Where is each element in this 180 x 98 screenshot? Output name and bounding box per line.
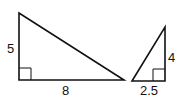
label-left-horizontal: 8	[62, 83, 69, 98]
label-right-horizontal: 2.5	[140, 83, 158, 98]
triangle-right	[132, 27, 165, 81]
diagram-canvas: 5 8 4 2.5	[0, 0, 180, 98]
right-angle-marker-left	[19, 68, 31, 80]
label-left-vertical: 5	[7, 41, 14, 56]
label-right-vertical: 4	[168, 50, 175, 65]
triangle-left	[19, 13, 124, 80]
right-angle-marker-right	[153, 69, 165, 81]
